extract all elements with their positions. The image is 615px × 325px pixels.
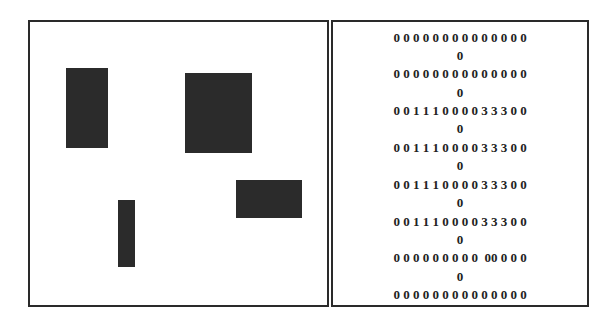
matrix-row: 0 0 1 1 1 0 0 0 0 3 3 3 0 0 [333, 141, 587, 155]
label-matrix-panel: 0 0 0 0 0 0 0 0 0 0 0 0 0 0 0 0 0 0 0 0 … [331, 20, 589, 307]
matrix-row-wrap: 0 [333, 270, 587, 284]
matrix-row: 0 0 0 0 0 0 0 0 0 0 0 0 0 0 [333, 31, 587, 45]
dark-region-3 [236, 180, 302, 218]
dark-region-2 [185, 73, 252, 153]
matrix-row-wrap: 0 [333, 196, 587, 210]
matrix-row-wrap: 0 [333, 86, 587, 100]
matrix-row: 0 0 0 0 0 0 0 0 0 0 0 0 0 0 [333, 288, 587, 302]
matrix-row-wrap: 0 [333, 233, 587, 247]
matrix-row: 0 0 0 0 0 0 0 0 0 0 0 0 0 0 [333, 67, 587, 81]
matrix-row-wrap: 0 [333, 159, 587, 173]
matrix-row: 0 0 0 0 0 0 0 0 0 00 0 0 0 [333, 251, 587, 265]
matrix-row-wrap: 0 [333, 122, 587, 136]
binary-image-panel [28, 20, 329, 307]
matrix-row: 0 0 1 1 1 0 0 0 0 3 3 3 0 0 [333, 104, 587, 118]
matrix-row: 0 0 1 1 1 0 0 0 0 3 3 3 0 0 [333, 215, 587, 229]
matrix-row-wrap: 0 [333, 49, 587, 63]
dark-region-1 [66, 68, 108, 148]
matrix-row: 0 0 1 1 1 0 0 0 0 3 3 3 0 0 [333, 178, 587, 192]
dark-region-4 [118, 200, 135, 267]
